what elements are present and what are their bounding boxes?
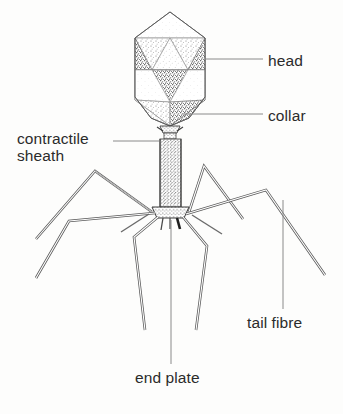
label-tail-fibre: tail fibre [247,314,302,331]
tail-fibre [134,217,158,330]
tail-fibre [183,217,207,330]
capsid-head [135,12,205,126]
label-head: head [268,52,303,69]
label-end-plate: end plate [135,369,200,386]
label-contractile-line1: contractile [17,130,89,147]
tail-fibre [186,190,325,275]
collar-part [157,126,183,139]
label-contractile-sheath: contractile sheath [17,130,89,164]
label-contractile-line2: sheath [17,147,89,164]
contractile-sheath-part [160,139,181,207]
tail-fibre [36,171,152,239]
label-collar: collar [268,107,306,124]
